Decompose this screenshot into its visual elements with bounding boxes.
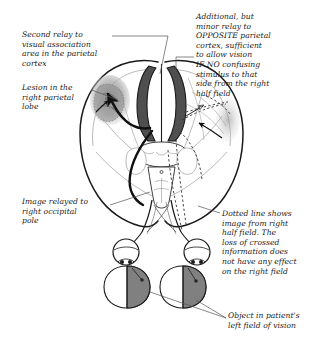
left-visual-field-oval xyxy=(104,266,150,308)
annotation-lesion: Lesion in the right parietal lobe xyxy=(22,83,96,112)
right-cortex-shading xyxy=(216,98,240,142)
annotation-second-relay: Second relay to visual association area … xyxy=(22,30,114,68)
annotation-object-left-field: Object in patient's left field of vision xyxy=(228,311,320,330)
annotation-additional-relay: Additional, but minor relay to OPPOSITE … xyxy=(196,12,308,98)
occipital-cortex-bands xyxy=(137,64,186,150)
annotation-dotted-line: Dotted line shows image from right half … xyxy=(222,209,320,276)
annotation-occipital-pole: Image relayed to right occipital pole xyxy=(22,197,110,226)
left-eye xyxy=(113,239,139,265)
right-eye xyxy=(184,239,210,265)
